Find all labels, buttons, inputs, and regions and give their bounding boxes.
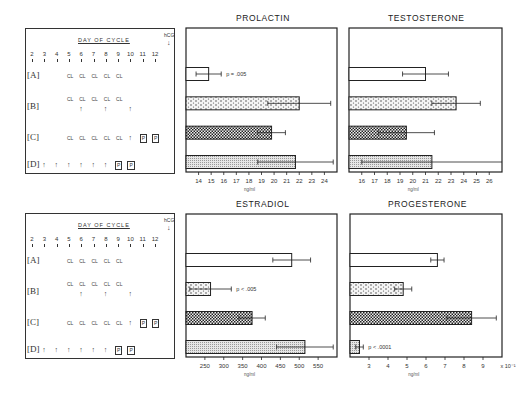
p-value-annotation: p < .005 (236, 286, 256, 292)
p-value-annotation: p = .005 (226, 71, 246, 77)
x-tick-label: 21 (283, 178, 290, 184)
x-tick-label: 17 (371, 178, 378, 184)
x-tick-label: 20 (409, 178, 416, 184)
x-tick-label: 22 (296, 178, 303, 184)
x-tick-label: 450 (275, 363, 286, 369)
x-tick-label: 14 (195, 178, 202, 184)
p-value-annotation: p < .0001 (368, 344, 391, 350)
x-tick-label: 18 (384, 178, 391, 184)
x-tick-label: 24 (460, 178, 467, 184)
x-tick-label: 250 (200, 363, 211, 369)
scale-factor-label: x 10⁻¹ (500, 363, 515, 369)
x-tick-label: 300 (219, 363, 230, 369)
x-tick-label: 6 (424, 363, 428, 369)
x-tick-label: 8 (462, 363, 466, 369)
x-axis-label: ng/ml (408, 372, 419, 377)
x-tick-label: 24 (321, 178, 328, 184)
bar-a (350, 254, 437, 267)
x-tick-label: 7 (443, 363, 447, 369)
x-tick-label: 18 (246, 178, 253, 184)
x-axis-label: ng/ml (408, 187, 419, 192)
x-tick-label: 500 (294, 363, 305, 369)
x-tick-label: 23 (448, 178, 455, 184)
charts-canvas: 1415161718192021222324ng/mlp = .00516171… (0, 0, 526, 397)
x-tick-label: 17 (233, 178, 240, 184)
x-tick-label: 19 (258, 178, 265, 184)
x-tick-label: 16 (220, 178, 227, 184)
x-tick-label: 15 (208, 178, 215, 184)
x-tick-label: 25 (473, 178, 480, 184)
x-tick-label: 550 (313, 363, 324, 369)
x-tick-label: 5 (405, 363, 409, 369)
x-tick-label: 9 (481, 363, 485, 369)
x-tick-label: 21 (422, 178, 429, 184)
x-tick-label: 16 (358, 178, 365, 184)
x-tick-label: 4 (386, 363, 390, 369)
x-tick-label: 3 (367, 363, 371, 369)
x-tick-label: 23 (308, 178, 315, 184)
x-tick-label: 26 (486, 178, 493, 184)
x-tick-label: 400 (256, 363, 267, 369)
x-tick-label: 350 (238, 363, 249, 369)
x-axis-label: ng/ml (244, 187, 255, 192)
x-axis-label: ng/ml (244, 372, 255, 377)
x-tick-label: 19 (397, 178, 404, 184)
x-tick-label: 22 (435, 178, 442, 184)
x-tick-label: 20 (271, 178, 278, 184)
